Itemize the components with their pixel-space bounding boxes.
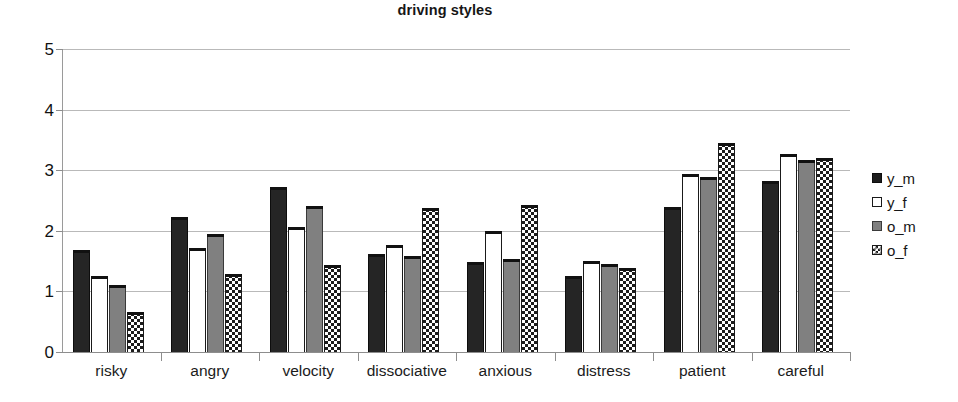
- bar-top-cap: [306, 206, 323, 209]
- category-separator: [161, 352, 162, 361]
- bar-dissociative-y_f: [386, 245, 403, 352]
- x-tick-label-risky: risky: [95, 362, 127, 380]
- legend-label: y_f: [887, 195, 906, 210]
- bar-top-cap: [700, 177, 717, 180]
- bar-top-cap: [503, 259, 520, 262]
- bar-top-cap: [682, 174, 699, 177]
- bar-top-cap: [583, 261, 600, 264]
- category-separator: [358, 352, 359, 361]
- legend-item-y_m[interactable]: y_m: [872, 166, 956, 190]
- bar-anxious-y_m: [467, 262, 484, 352]
- x-tick-label-distress: distress: [577, 362, 630, 380]
- bar-top-cap: [73, 250, 90, 253]
- bar-distress-y_m: [565, 276, 582, 352]
- bar-group: [161, 49, 260, 352]
- bar-group: [653, 49, 752, 352]
- legend-label: o_m: [887, 219, 916, 234]
- bar-angry-y_m: [171, 217, 188, 352]
- bar-risky-y_m: [73, 250, 90, 352]
- chart-title: driving styles: [0, 2, 890, 18]
- bar-patient-o_f: [718, 143, 735, 352]
- bar-top-cap: [324, 265, 341, 268]
- bar-top-cap: [368, 254, 385, 257]
- bar-careful-o_f: [816, 158, 833, 352]
- bar-risky-o_f: [127, 312, 144, 352]
- category-separator: [259, 352, 260, 361]
- bar-distress-o_m: [601, 264, 618, 352]
- x-tick-label-dissociative: dissociative: [367, 362, 447, 380]
- y-tick-label: 1: [14, 283, 54, 300]
- category-separator: [653, 352, 654, 361]
- x-tick-label-velocity: velocity: [282, 362, 334, 380]
- bar-top-cap: [171, 217, 188, 220]
- bar-top-cap: [127, 312, 144, 315]
- category-separator: [456, 352, 457, 361]
- legend-swatch-icon: [872, 245, 882, 255]
- bar-top-cap: [664, 207, 681, 210]
- y-tick-label: 4: [14, 101, 54, 118]
- bar-anxious-o_f: [521, 205, 538, 352]
- y-tick-label: 3: [14, 162, 54, 179]
- bar-velocity-y_f: [288, 227, 305, 352]
- bar-patient-y_m: [664, 207, 681, 352]
- bar-angry-o_m: [207, 234, 224, 352]
- bar-top-cap: [270, 187, 287, 190]
- bar-top-cap: [485, 231, 502, 234]
- bar-group: [62, 49, 161, 352]
- x-tick-label-patient: patient: [679, 362, 726, 380]
- bar-careful-y_m: [762, 181, 779, 352]
- bar-top-cap: [798, 160, 815, 163]
- legend-label: y_m: [887, 171, 915, 186]
- bar-top-cap: [386, 245, 403, 248]
- bar-group: [259, 49, 358, 352]
- bar-distress-y_f: [583, 261, 600, 352]
- legend-item-o_f[interactable]: o_f: [872, 238, 956, 262]
- bar-dissociative-o_f: [422, 208, 439, 352]
- bar-groups: [62, 49, 850, 352]
- bar-top-cap: [422, 208, 439, 211]
- driving-styles-bar-chart: driving styles 543210 riskyangryvelocity…: [0, 0, 958, 402]
- bar-top-cap: [207, 234, 224, 237]
- bar-group: [358, 49, 457, 352]
- legend-item-y_f[interactable]: y_f: [872, 190, 956, 214]
- bar-patient-o_m: [700, 177, 717, 352]
- bar-top-cap: [467, 262, 484, 265]
- y-tick-mark: [56, 49, 63, 50]
- bar-velocity-o_f: [324, 265, 341, 352]
- category-separator: [850, 352, 851, 361]
- bar-top-cap: [780, 154, 797, 157]
- bar-anxious-o_m: [503, 259, 520, 352]
- x-tick-label-careful: careful: [777, 362, 824, 380]
- y-tick-mark: [56, 291, 63, 292]
- bar-top-cap: [521, 205, 538, 208]
- x-axis-category-labels: riskyangryvelocitydissociativeanxiousdis…: [62, 362, 850, 388]
- bar-top-cap: [565, 276, 582, 279]
- bar-top-cap: [816, 158, 833, 161]
- bar-top-cap: [91, 276, 108, 279]
- y-tick-label: 0: [14, 344, 54, 361]
- bar-top-cap: [225, 274, 242, 277]
- x-tick-label-angry: angry: [190, 362, 229, 380]
- bar-top-cap: [619, 268, 636, 271]
- bar-dissociative-y_m: [368, 254, 385, 352]
- bar-risky-y_f: [91, 276, 108, 352]
- bar-top-cap: [601, 264, 618, 267]
- bar-dissociative-o_m: [404, 256, 421, 352]
- legend-item-o_m[interactable]: o_m: [872, 214, 956, 238]
- bar-top-cap: [288, 227, 305, 230]
- y-axis-tick-labels: 543210: [6, 49, 54, 352]
- y-tick-mark: [56, 352, 63, 353]
- bar-top-cap: [718, 143, 735, 146]
- bar-velocity-o_m: [306, 206, 323, 352]
- category-separator: [752, 352, 753, 361]
- bar-distress-o_f: [619, 268, 636, 352]
- bar-anxious-y_f: [485, 231, 502, 352]
- y-tick-label: 5: [14, 41, 54, 58]
- bar-top-cap: [404, 256, 421, 259]
- bar-patient-y_f: [682, 174, 699, 352]
- bar-careful-o_m: [798, 160, 815, 352]
- legend-swatch-icon: [872, 221, 882, 231]
- bar-group: [456, 49, 555, 352]
- y-tick-mark: [56, 170, 63, 171]
- legend-swatch-icon: [872, 173, 882, 183]
